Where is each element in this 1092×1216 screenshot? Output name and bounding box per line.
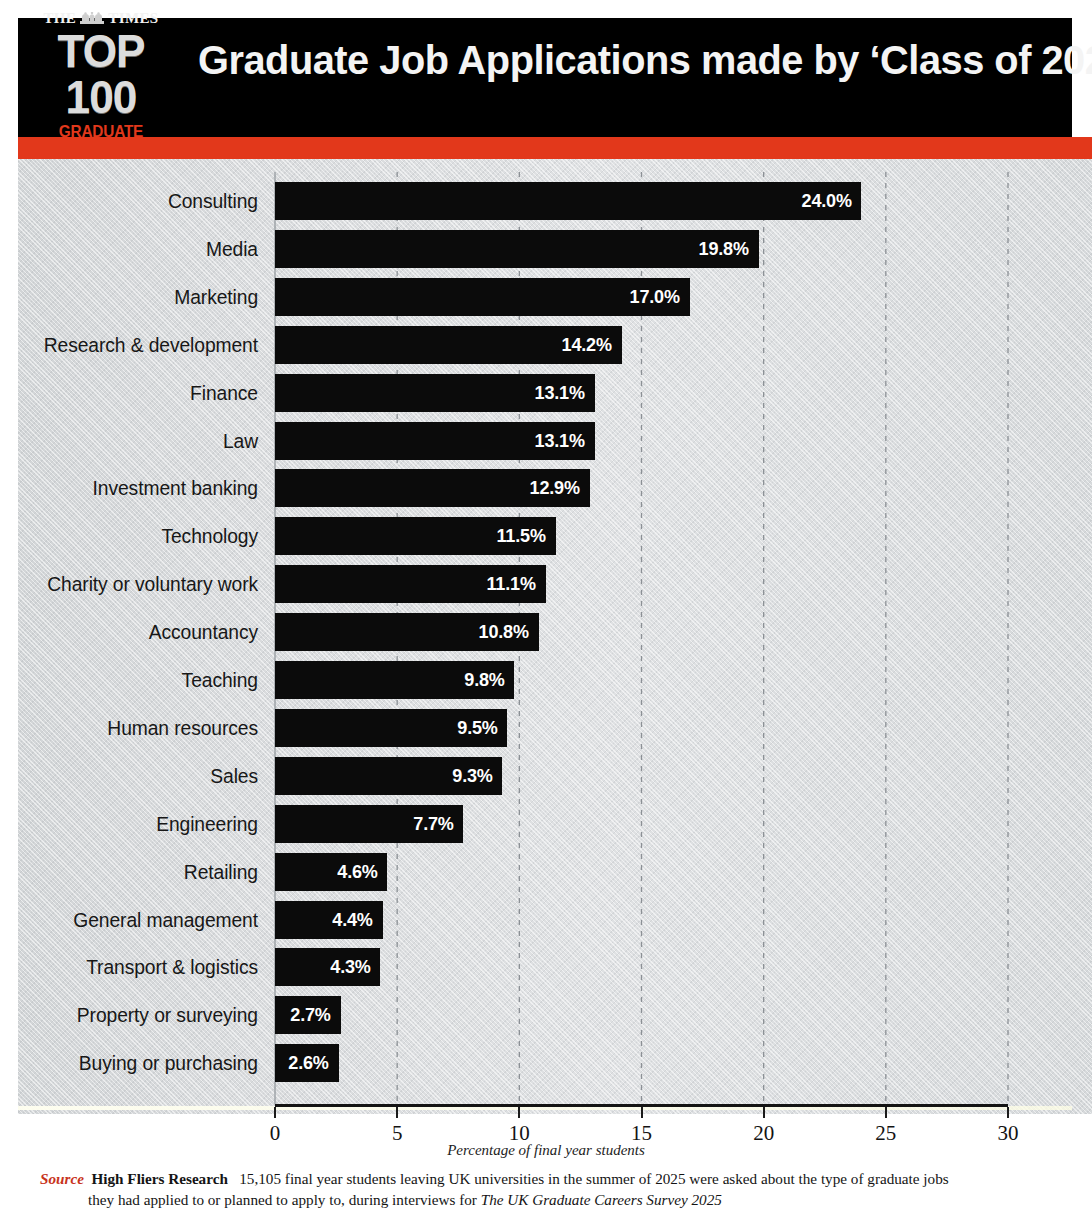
bar-value-label: 4.6%	[337, 861, 386, 883]
x-axis-tick	[1007, 1107, 1009, 1118]
bar-buying-or-purchasing: 2.6%	[275, 1044, 339, 1082]
x-axis-tick	[518, 1107, 520, 1118]
source-description-line1: 15,105 final year students leaving UK un…	[239, 1170, 948, 1187]
bar-value-label: 11.5%	[497, 525, 555, 547]
source-description-line2: they had applied to or planned to apply …	[88, 1191, 481, 1208]
chart-page: THE TIMES TOP 100 GRADUATE EMPLOYERS	[0, 0, 1092, 1216]
bar-law: 13.1%	[275, 422, 595, 460]
source-footnote: Source High Fliers Research 15,105 final…	[40, 1168, 1070, 1210]
bar-value-label: 19.8%	[698, 238, 757, 260]
bar-media: 19.8%	[275, 230, 759, 268]
bar-value-label: 9.8%	[464, 669, 513, 691]
bar-value-label: 9.5%	[457, 717, 506, 739]
bar-consulting: 24.0%	[275, 182, 861, 220]
source-label: Source	[40, 1170, 84, 1187]
bar-value-label: 13.1%	[535, 382, 594, 404]
bar-research-development: 14.2%	[275, 326, 622, 364]
bar-engineering: 7.7%	[275, 805, 463, 843]
bar-value-label: 2.7%	[291, 1004, 340, 1026]
x-axis-tick	[396, 1107, 398, 1118]
bar-value-label: 17.0%	[630, 286, 689, 308]
x-axis-tick	[763, 1107, 765, 1118]
survey-name: The UK Graduate Careers Survey 2025	[481, 1191, 722, 1208]
x-axis-tick	[274, 1107, 276, 1118]
bar-charity-or-voluntary-work: 11.1%	[275, 565, 546, 603]
bar-general-management: 4.4%	[275, 901, 383, 939]
bar-property-or-surveying: 2.7%	[275, 996, 341, 1034]
bar-investment-banking: 12.9%	[275, 469, 590, 507]
bar-value-label: 4.3%	[330, 956, 379, 978]
bar-retailing: 4.6%	[275, 853, 387, 891]
bar-sales: 9.3%	[275, 757, 502, 795]
bar-value-label: 12.9%	[530, 477, 589, 499]
bar-value-label: 24.0%	[801, 190, 860, 212]
bar-value-label: 7.7%	[413, 813, 462, 835]
bar-technology: 11.5%	[275, 517, 556, 555]
bar-finance: 13.1%	[275, 374, 595, 412]
bar-human-resources: 9.5%	[275, 709, 507, 747]
bar-value-label: 14.2%	[562, 334, 621, 356]
bar-value-label: 13.1%	[535, 430, 594, 452]
bar-value-label: 2.6%	[288, 1052, 337, 1074]
bar-transport-logistics: 4.3%	[275, 948, 380, 986]
x-axis-tick	[641, 1107, 643, 1118]
bar-marketing: 17.0%	[275, 278, 690, 316]
bar-value-label: 10.8%	[479, 621, 538, 643]
bar-value-label: 11.1%	[487, 573, 545, 595]
bar-teaching: 9.8%	[275, 661, 514, 699]
x-axis-tick	[885, 1107, 887, 1118]
x-axis-caption: Percentage of final year students	[0, 1142, 1092, 1159]
bar-value-label: 9.3%	[452, 765, 501, 787]
bars-container: 24.0%19.8%17.0%14.2%13.1%13.1%12.9%11.5%…	[0, 0, 1092, 1216]
bar-value-label: 4.4%	[332, 909, 381, 931]
source-organisation: High Fliers Research	[91, 1170, 227, 1187]
source-line2: they had applied to or planned to apply …	[40, 1189, 1070, 1210]
bar-accountancy: 10.8%	[275, 613, 539, 651]
